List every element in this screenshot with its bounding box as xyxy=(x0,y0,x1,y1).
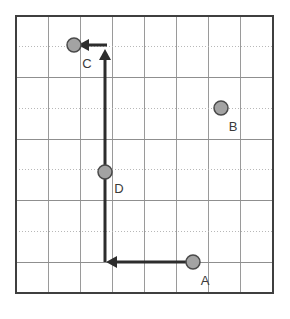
point-marker-C xyxy=(67,38,81,52)
point-marker-A xyxy=(186,255,200,269)
point-label-A: A xyxy=(201,273,210,288)
diagram-canvas: ABCD xyxy=(0,0,290,319)
point-label-D: D xyxy=(114,181,123,196)
point-label-B: B xyxy=(229,119,238,134)
point-marker-D xyxy=(98,165,112,179)
point-label-C: C xyxy=(82,56,91,71)
point-marker-B xyxy=(214,101,228,115)
vector-grid-diagram: ABCD xyxy=(0,0,290,319)
